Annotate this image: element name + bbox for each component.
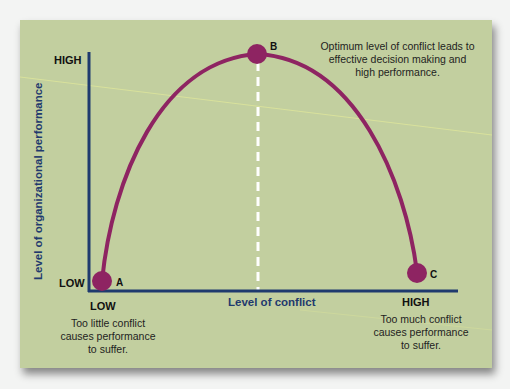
x-axis-title: Level of conflict — [228, 296, 316, 308]
note-line: causes performance — [52, 330, 164, 343]
note-line: Optimum level of conflict leads to — [300, 40, 495, 53]
too-much-note: Too much conflict causes performance to … — [367, 313, 475, 352]
point-a-label: A — [116, 277, 123, 288]
point-c-label: C — [430, 269, 437, 280]
point-b-marker — [247, 44, 267, 64]
point-a-marker — [92, 271, 112, 291]
note-line: effective decision making and — [300, 53, 495, 66]
optimum-note: Optimum level of conflict leads to effec… — [300, 40, 495, 79]
note-line: Too little conflict — [52, 317, 164, 330]
point-c-marker — [407, 263, 427, 283]
note-line: Too much conflict — [367, 313, 475, 326]
y-high-label: HIGH — [54, 54, 82, 66]
note-line: high performance. — [300, 66, 495, 79]
point-b-label: B — [270, 41, 277, 52]
y-low-label: LOW — [59, 277, 85, 289]
x-high-label: HIGH — [402, 296, 430, 308]
note-line: causes performance — [367, 326, 475, 339]
note-line: to suffer. — [367, 339, 475, 352]
note-line: to suffer. — [52, 343, 164, 356]
x-low-label: LOW — [90, 300, 116, 312]
y-axis-title: Level of organizational performance — [32, 83, 44, 280]
too-little-note: Too little conflict causes performance t… — [52, 317, 164, 356]
